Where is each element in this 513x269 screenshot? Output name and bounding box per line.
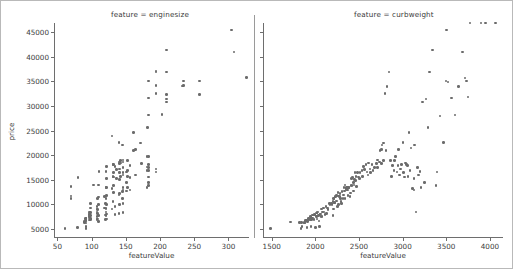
data-point xyxy=(340,202,343,205)
data-point xyxy=(111,135,114,138)
data-point xyxy=(406,164,409,167)
data-point xyxy=(105,213,108,216)
data-point xyxy=(428,71,431,74)
data-point xyxy=(410,147,413,150)
y-tick xyxy=(260,131,263,132)
data-point xyxy=(112,200,115,203)
data-point xyxy=(85,222,88,225)
data-point xyxy=(461,51,464,54)
y-tick-label: 15000 xyxy=(26,175,49,184)
data-point xyxy=(129,189,132,192)
data-point xyxy=(122,202,125,205)
y-tick xyxy=(260,106,263,107)
y-tick xyxy=(260,32,263,33)
y-tick xyxy=(51,106,54,107)
data-point xyxy=(182,80,185,83)
data-point xyxy=(465,80,468,83)
data-point xyxy=(122,161,125,164)
data-point xyxy=(469,22,472,25)
data-point xyxy=(97,196,100,199)
data-point xyxy=(352,190,355,193)
data-point xyxy=(230,29,233,32)
data-point xyxy=(467,96,470,99)
data-point xyxy=(70,185,73,188)
data-point xyxy=(420,186,423,189)
data-point xyxy=(112,184,115,187)
data-point xyxy=(126,186,129,189)
y-axis-spine-right xyxy=(263,23,264,238)
data-point xyxy=(313,218,316,221)
data-point xyxy=(393,169,396,172)
data-point xyxy=(318,220,321,223)
data-point xyxy=(118,192,121,195)
data-point xyxy=(389,159,392,162)
data-point xyxy=(132,131,135,134)
x-tick xyxy=(194,238,195,241)
data-point xyxy=(384,92,387,95)
y-tick-label: 20000 xyxy=(26,151,49,160)
x-tick-label: 300 xyxy=(222,242,236,251)
data-point xyxy=(121,144,124,147)
data-point xyxy=(147,97,150,100)
data-point xyxy=(105,197,108,200)
axes-enginesize: 5000100001500020000250003000035000400004… xyxy=(54,23,249,238)
data-point xyxy=(318,225,321,228)
data-point xyxy=(480,22,483,25)
data-point xyxy=(89,202,92,205)
data-point xyxy=(118,178,121,181)
data-point xyxy=(335,200,338,203)
data-point xyxy=(425,98,428,101)
data-point xyxy=(122,171,125,174)
x-tick xyxy=(490,238,491,241)
data-point xyxy=(442,141,445,144)
data-point xyxy=(147,155,150,158)
y-axis-spine-left xyxy=(54,23,55,238)
data-point xyxy=(165,49,168,52)
data-point xyxy=(445,29,448,32)
data-point xyxy=(269,227,272,230)
data-point xyxy=(125,181,128,184)
x-axis-label-right: featureValue xyxy=(360,251,406,260)
data-point xyxy=(85,227,88,230)
data-point xyxy=(436,171,439,174)
y-tick-label: 10000 xyxy=(26,200,49,209)
data-point xyxy=(427,126,430,129)
data-point xyxy=(388,71,391,74)
data-point xyxy=(85,217,88,220)
data-point xyxy=(165,101,168,104)
data-point xyxy=(118,171,121,174)
data-point xyxy=(105,218,108,221)
y-tick-label: 5000 xyxy=(31,225,49,234)
x-tick xyxy=(446,238,447,241)
data-point xyxy=(447,81,450,84)
data-point xyxy=(306,226,309,229)
data-point xyxy=(121,197,124,200)
y-tick xyxy=(51,155,54,156)
x-tick-label: 100 xyxy=(85,242,99,251)
x-tick-label: 1500 xyxy=(263,242,281,251)
data-point xyxy=(327,208,330,211)
y-tick-label: 40000 xyxy=(26,52,49,61)
x-tick-label: 50 xyxy=(53,242,62,251)
y-tick xyxy=(260,57,263,58)
data-point xyxy=(105,186,108,189)
data-point xyxy=(398,174,401,177)
data-point xyxy=(122,211,125,214)
data-point xyxy=(380,148,383,151)
data-point xyxy=(122,166,125,169)
x-tick-label: 2000 xyxy=(306,242,324,251)
y-tick xyxy=(260,204,263,205)
data-point xyxy=(122,186,125,189)
data-point xyxy=(339,192,342,195)
data-point xyxy=(147,166,150,169)
data-point xyxy=(134,148,137,151)
data-point xyxy=(439,115,442,118)
data-point xyxy=(125,190,128,193)
data-point xyxy=(233,51,236,54)
x-tick xyxy=(126,238,127,241)
data-point xyxy=(332,208,335,211)
data-point xyxy=(111,208,114,211)
data-point xyxy=(134,174,137,177)
data-point xyxy=(97,214,100,217)
data-point xyxy=(450,97,453,100)
